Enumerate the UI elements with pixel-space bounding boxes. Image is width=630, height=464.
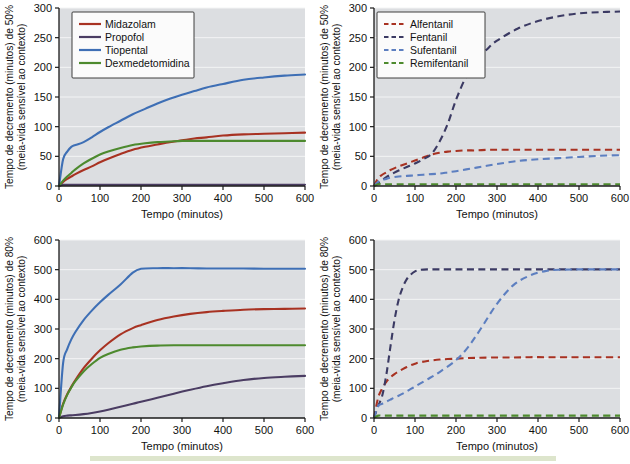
x-tick-label: 500 <box>570 424 588 436</box>
x-tick-label: 500 <box>255 192 273 204</box>
legend-label-sufentanil: Sufentanil <box>410 44 457 56</box>
x-tick-label: 300 <box>173 424 191 436</box>
y-tick-label: 300 <box>349 323 367 335</box>
x-tick-label: 300 <box>173 192 191 204</box>
x-axis-title: Tempo (minutos) <box>456 440 538 452</box>
x-tick-label: 600 <box>611 192 629 204</box>
y-tick-label: 150 <box>34 91 52 103</box>
y-tick-label: 600 <box>34 234 52 246</box>
y-tick-label: 0 <box>361 180 367 192</box>
chart-panel-bottom-right: 01002003004005006000100200300400500600Te… <box>315 232 630 454</box>
y-tick-label: 50 <box>355 150 367 162</box>
x-tick-label: 600 <box>296 192 314 204</box>
y-tick-label: 400 <box>34 293 52 305</box>
x-tick-label: 0 <box>371 424 377 436</box>
y-tick-label: 100 <box>34 382 52 394</box>
legend-label-remifentanil: Remifentanil <box>410 57 468 69</box>
chart-legend: MidazolamPropofolTiopentalDexmedetomidin… <box>72 12 194 78</box>
y-axis-title-group: Tempo de decremento (minutos) de 50%(mei… <box>319 5 342 189</box>
x-tick-label: 200 <box>132 192 150 204</box>
x-tick-label: 300 <box>488 424 506 436</box>
y-tick-label: 300 <box>34 323 52 335</box>
legend-label-fentanil: Fentanil <box>410 31 447 43</box>
x-tick-label: 200 <box>447 424 465 436</box>
x-tick-label: 100 <box>91 192 109 204</box>
y-axis-title-line2: (meia-vida sensível ao contexto) <box>331 24 342 171</box>
y-tick-label: 0 <box>361 412 367 424</box>
x-tick-label: 300 <box>488 192 506 204</box>
y-axis-title-group: Tempo de decremento (minutos) de 80%(mei… <box>319 237 342 421</box>
y-tick-label: 400 <box>349 293 367 305</box>
x-tick-label: 400 <box>529 424 547 436</box>
x-tick-label: 200 <box>132 424 150 436</box>
chart-legend: AlfentanilFentanilSufentanilRemifentanil <box>377 12 485 78</box>
x-tick-label: 100 <box>406 192 424 204</box>
figure-container: 0100200300400500600050100150200250300Tem… <box>0 0 630 464</box>
y-tick-label: 200 <box>349 353 367 365</box>
y-tick-label: 250 <box>349 32 367 44</box>
y-tick-label: 100 <box>349 382 367 394</box>
y-tick-label: 600 <box>349 234 367 246</box>
x-tick-label: 0 <box>371 192 377 204</box>
y-axis-title-line2: (meia-vida sensível ao contexto) <box>16 24 27 171</box>
y-tick-label: 150 <box>349 91 367 103</box>
chart-panel-bottom-left: 01002003004005006000100200300400500600Te… <box>0 232 315 454</box>
chart-panel-top-right: 0100200300400500600050100150200250300Tem… <box>315 0 630 222</box>
y-axis-title-line1: Tempo de decremento (minutos) de 80% <box>319 237 330 421</box>
x-tick-label: 500 <box>255 424 273 436</box>
y-tick-label: 300 <box>349 2 367 14</box>
y-tick-label: 200 <box>34 61 52 73</box>
y-tick-label: 250 <box>34 32 52 44</box>
y-tick-label: 100 <box>349 121 367 133</box>
y-axis-title-line1: Tempo de decremento (minutos) de 80% <box>4 237 15 421</box>
y-tick-label: 0 <box>46 180 52 192</box>
x-tick-label: 600 <box>611 424 629 436</box>
legend-label-dexmedetomidina: Dexmedetomidina <box>105 57 190 69</box>
x-tick-label: 0 <box>56 192 62 204</box>
y-tick-label: 0 <box>46 412 52 424</box>
chart-panel-bottom-right: 01002003004005006000100200300400500600Te… <box>315 232 630 454</box>
x-tick-label: 400 <box>529 192 547 204</box>
y-axis-title-line1: Tempo de decremento (minutos) de 50% <box>4 5 15 189</box>
y-axis-title-line2: (meia-vida sensível ao contexto) <box>331 256 342 403</box>
x-tick-label: 400 <box>214 192 232 204</box>
y-tick-label: 200 <box>34 353 52 365</box>
x-tick-label: 100 <box>406 424 424 436</box>
y-tick-label: 100 <box>34 121 52 133</box>
x-axis-title: Tempo (minutos) <box>141 208 223 220</box>
legend-label-alfentanil: Alfentanil <box>410 18 453 30</box>
chart-panel-top-left: 0100200300400500600050100150200250300Tem… <box>0 0 315 222</box>
x-tick-label: 500 <box>570 192 588 204</box>
legend-label-propofol: Propofol <box>105 31 144 43</box>
y-tick-label: 50 <box>40 150 52 162</box>
bottom-accent-bar <box>90 456 556 461</box>
x-tick-label: 100 <box>91 424 109 436</box>
x-axis-title: Tempo (minutos) <box>141 440 223 452</box>
y-axis-title-line2: (meia-vida sensível ao contexto) <box>16 256 27 403</box>
y-axis-title-group: Tempo de decremento (minutos) de 80%(mei… <box>4 237 27 421</box>
x-tick-label: 200 <box>447 192 465 204</box>
y-tick-label: 200 <box>349 61 367 73</box>
x-tick-label: 400 <box>214 424 232 436</box>
chart-panel-bottom-left: 01002003004005006000100200300400500600Te… <box>0 232 315 454</box>
y-axis-title-line1: Tempo de decremento (minutos) de 50% <box>319 5 330 189</box>
y-tick-label: 500 <box>34 264 52 276</box>
y-axis-title-group: Tempo de decremento (minutos) de 50%(mei… <box>4 5 27 189</box>
y-tick-label: 300 <box>34 2 52 14</box>
chart-panel-top-left: 0100200300400500600050100150200250300Tem… <box>0 0 315 222</box>
x-tick-label: 0 <box>56 424 62 436</box>
legend-label-tiopental: Tiopental <box>105 44 148 56</box>
legend-label-midazolam: Midazolam <box>105 18 156 30</box>
x-axis-title: Tempo (minutos) <box>456 208 538 220</box>
x-tick-label: 600 <box>296 424 314 436</box>
chart-panel-top-right: 0100200300400500600050100150200250300Tem… <box>315 0 630 222</box>
y-tick-label: 500 <box>349 264 367 276</box>
